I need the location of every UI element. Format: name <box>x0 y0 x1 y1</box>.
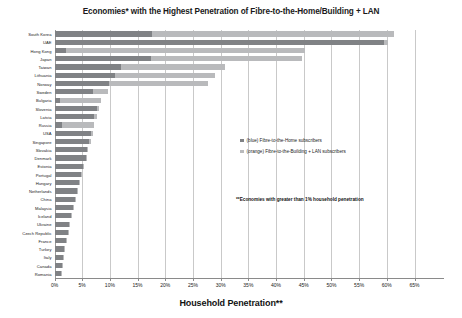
bar-row: Norway <box>55 80 444 88</box>
bar-segment-fth <box>55 56 151 61</box>
stacked-bar <box>55 98 102 103</box>
stacked-bar <box>55 56 302 61</box>
bar-segment-ftb <box>89 139 91 144</box>
y-axis-label: Canada <box>37 263 52 268</box>
bar-segment-fth <box>55 180 79 185</box>
y-axis-label: Turkey <box>39 247 52 252</box>
stacked-bar <box>55 89 109 94</box>
bar-row: Sweden <box>55 88 444 96</box>
bar-segment-ftb <box>87 147 89 152</box>
bar-segment-ftb <box>79 180 80 185</box>
stacked-bar <box>55 263 63 268</box>
y-axis-label: South Korea <box>28 32 51 37</box>
stacked-bar <box>55 271 62 276</box>
bar-row: Italy <box>55 253 444 261</box>
bar-segment-ftb <box>86 155 87 160</box>
y-axis-label: Singapore <box>32 139 51 144</box>
legend-swatch-icon-ftb <box>240 150 244 154</box>
bar-row: Canada <box>55 261 444 269</box>
bar-row: Malaysia <box>55 204 444 212</box>
bar-row: Czech Republic <box>55 228 444 236</box>
bar-row: USA <box>55 129 444 137</box>
x-tick-mark-30pct <box>221 278 222 281</box>
bar-segment-fth <box>55 40 385 45</box>
bar-segment-fth <box>55 205 74 210</box>
bar-row: France <box>55 237 444 245</box>
x-tick-mark-20pct <box>165 278 166 281</box>
stacked-bar <box>55 255 64 260</box>
bar-segment-ftb <box>64 246 65 251</box>
bar-row: Bulgaria <box>55 96 444 104</box>
bar-segment-fth <box>55 81 109 86</box>
bar-row: Hong Kong <box>55 47 444 55</box>
x-tick-label-35pct: 35% <box>243 282 253 288</box>
bar-row: Hungary <box>55 179 444 187</box>
x-tick-label-25pct: 25% <box>188 282 198 288</box>
y-axis-label: Hong Kong <box>31 48 52 53</box>
y-axis-label: Iceland <box>38 213 52 218</box>
bar-row: Iceland <box>55 212 444 220</box>
y-axis-label: USA <box>43 131 52 136</box>
y-axis-label: Malaysia <box>35 205 52 210</box>
x-tick-label-65pct: 65% <box>409 282 419 288</box>
stacked-bar <box>55 81 209 86</box>
bar-segment-fth <box>55 255 63 260</box>
chart-footnote: **Economies with greater than 1% househo… <box>236 197 364 202</box>
x-axis-ticks: 0%5%10%15%20%25%30%35%40%45%50%55%60%65% <box>55 278 444 290</box>
stacked-bar <box>55 155 87 160</box>
bar-row: Slovenia <box>55 104 444 112</box>
bar-segment-fth <box>55 155 86 160</box>
bar-segment-fth <box>55 230 68 235</box>
y-axis-label: Slovakia <box>36 147 52 152</box>
y-axis-label: Norway <box>37 81 51 86</box>
x-tick-mark-50pct <box>331 278 332 281</box>
bar-segment-ftb <box>93 89 108 94</box>
bar-segment-ftb <box>66 238 67 243</box>
bar-segment-fth <box>55 238 66 243</box>
x-tick-mark-60pct <box>387 278 388 281</box>
bar-segment-fth <box>55 31 152 36</box>
y-axis-label: UAE <box>43 40 52 45</box>
y-axis-label: Portugal <box>36 172 52 177</box>
stacked-bar <box>55 64 225 69</box>
bar-segment-fth <box>55 73 116 78</box>
y-axis-label: Japan <box>40 56 51 61</box>
stacked-bar <box>55 205 74 210</box>
x-tick-label-0pct: 0% <box>51 282 58 288</box>
y-axis-label: Ukraine <box>37 222 51 227</box>
bar-segment-fth <box>55 122 63 127</box>
y-axis-label: Netherlands <box>29 189 52 194</box>
y-axis-label: Hungary <box>36 180 52 185</box>
y-axis-label: Sweden <box>36 89 51 94</box>
y-axis-label: Estonia <box>37 164 51 169</box>
x-tick-label-30pct: 30% <box>216 282 226 288</box>
x-tick-mark-45pct <box>304 278 305 281</box>
bar-row: Japan <box>55 55 444 63</box>
x-tick-label-5pct: 5% <box>79 282 86 288</box>
x-tick-label-55pct: 55% <box>354 282 364 288</box>
bar-segment-ftb <box>83 164 84 169</box>
x-tick-mark-10pct <box>110 278 111 281</box>
x-tick-mark-15pct <box>138 278 139 281</box>
bar-segment-ftb <box>77 188 78 193</box>
bar-segment-fth <box>55 48 66 53</box>
bar-segment-ftb <box>62 122 94 127</box>
legend-label-ftb: (orange) Fibre-to-the-Building + LAN sub… <box>247 149 346 154</box>
bar-segment-fth <box>55 213 72 218</box>
bar-segment-ftb <box>69 222 70 227</box>
bar-segment-ftb <box>151 56 302 61</box>
bar-segment-ftb <box>73 205 74 210</box>
bar-segment-ftb <box>97 106 99 111</box>
x-tick-mark-25pct <box>193 278 194 281</box>
bar-row: Portugal <box>55 171 444 179</box>
legend-swatch-icon-fth <box>240 139 244 143</box>
x-tick-mark-55pct <box>359 278 360 281</box>
bar-segment-fth <box>55 89 94 94</box>
legend-item-fth: (blue) Fibre-to-the-Home subscribers <box>240 138 346 143</box>
bar-segment-ftb <box>384 40 388 45</box>
stacked-bar <box>55 106 99 111</box>
stacked-bar <box>55 114 97 119</box>
x-tick-label-40pct: 40% <box>271 282 281 288</box>
x-tick-mark-35pct <box>248 278 249 281</box>
bar-segment-ftb <box>81 172 82 177</box>
